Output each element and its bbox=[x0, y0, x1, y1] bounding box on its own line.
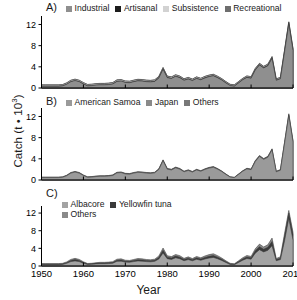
y-tick-label: 4 bbox=[31, 244, 36, 254]
legend-label: Others bbox=[71, 209, 97, 219]
x-tick-label: 1980 bbox=[157, 268, 178, 279]
legend-label: Recreational bbox=[233, 3, 281, 13]
y-tick-label: 8 bbox=[31, 41, 36, 51]
legend-item-recreational[interactable]: Recreational bbox=[225, 3, 282, 13]
x-tick-label: 2000 bbox=[241, 268, 262, 279]
area-series-american-samoa bbox=[42, 115, 294, 180]
panel-c-tag: C) bbox=[46, 187, 58, 199]
panel-b-tag: B) bbox=[46, 95, 57, 107]
legend-swatch-icon bbox=[66, 100, 72, 106]
legend-row: American SamoaJapanOthers bbox=[66, 97, 219, 107]
area-series-industrial bbox=[42, 24, 294, 88]
legend-label: Albacore bbox=[71, 199, 105, 209]
legend-item-subsistence[interactable]: Subsistence bbox=[163, 3, 218, 13]
legend-label: Industrial bbox=[75, 3, 110, 13]
legend-swatch-icon bbox=[225, 6, 231, 12]
y-tick-label: 12 bbox=[26, 20, 36, 30]
legend-swatch-icon bbox=[66, 6, 72, 12]
legend-row: AlbacoreYellowfin tuna bbox=[62, 199, 172, 209]
legend-label: Subsistence bbox=[172, 3, 219, 13]
panel-c-legend: AlbacoreYellowfin tunaOthers bbox=[62, 199, 172, 219]
legend-swatch-icon bbox=[110, 202, 116, 208]
legend-label: American Samoa bbox=[75, 97, 141, 107]
panel-a-tag: A) bbox=[46, 1, 57, 13]
panel-a: 04812 A) IndustrialArtisanalSubsistenceR… bbox=[0, 0, 297, 95]
y-tick-label: 8 bbox=[31, 226, 36, 236]
legend-label: Artisanal bbox=[124, 3, 157, 13]
legend-label: Yellowfin tuna bbox=[119, 199, 172, 209]
panel-b: 04812 B) American SamoaJapanOthers bbox=[0, 92, 297, 187]
legend-row: Others bbox=[62, 209, 172, 219]
legend-swatch-icon bbox=[184, 100, 190, 106]
legend-swatch-icon bbox=[163, 6, 169, 12]
legend-item-others[interactable]: Others bbox=[62, 209, 96, 219]
legend-swatch-icon bbox=[146, 100, 152, 106]
y-tick-label: 4 bbox=[31, 62, 36, 72]
legend-item-industrial[interactable]: Industrial bbox=[66, 3, 109, 13]
panel-a-plot: 04812 bbox=[0, 0, 297, 95]
y-tick-label: 12 bbox=[26, 112, 36, 122]
legend-item-others[interactable]: Others bbox=[184, 97, 218, 107]
figure-container: Catch (t • 103) 04812 A) IndustrialArtis… bbox=[0, 0, 297, 300]
y-tick-label: 4 bbox=[31, 154, 36, 164]
legend-swatch-icon bbox=[62, 202, 68, 208]
x-tick-label: 1950 bbox=[31, 268, 52, 279]
x-axis-label: Year bbox=[0, 283, 297, 297]
legend-row: IndustrialArtisanalSubsistenceRecreation… bbox=[66, 3, 281, 13]
panel-b-legend: American SamoaJapanOthers bbox=[66, 97, 219, 107]
legend-label: Others bbox=[193, 97, 219, 107]
legend-item-american-samoa[interactable]: American Samoa bbox=[66, 97, 140, 107]
y-tick-label: 12 bbox=[26, 208, 36, 218]
legend-swatch-icon bbox=[62, 212, 68, 218]
x-tick-label: 1970 bbox=[115, 268, 136, 279]
panel-a-legend: IndustrialArtisanalSubsistenceRecreation… bbox=[66, 3, 281, 13]
x-tick-label: 1990 bbox=[199, 268, 220, 279]
y-tick-label: 8 bbox=[31, 133, 36, 143]
legend-item-albacore[interactable]: Albacore bbox=[62, 199, 104, 209]
legend-item-yellowfin-tuna[interactable]: Yellowfin tuna bbox=[110, 199, 171, 209]
legend-swatch-icon bbox=[115, 6, 121, 12]
area-series-albacore bbox=[42, 218, 294, 266]
x-tick-label: 2010 bbox=[282, 268, 297, 279]
panel-c: 048121950196019701980199020002010 C) Alb… bbox=[0, 184, 297, 284]
legend-item-japan[interactable]: Japan bbox=[146, 97, 178, 107]
legend-label: Japan bbox=[155, 97, 178, 107]
x-tick-label: 1960 bbox=[73, 268, 94, 279]
legend-item-artisanal[interactable]: Artisanal bbox=[115, 3, 157, 13]
